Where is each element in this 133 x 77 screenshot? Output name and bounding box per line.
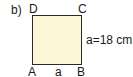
part-label: b): [11, 4, 22, 16]
vertex-a: A: [28, 66, 36, 77]
vertex-b: B: [77, 66, 85, 77]
vertex-c: C: [78, 3, 87, 15]
vertex-d: D: [29, 3, 38, 15]
square-abcd: [32, 15, 82, 65]
side-a-label: a: [55, 66, 62, 77]
side-length-label: a=18 cm: [86, 34, 132, 46]
